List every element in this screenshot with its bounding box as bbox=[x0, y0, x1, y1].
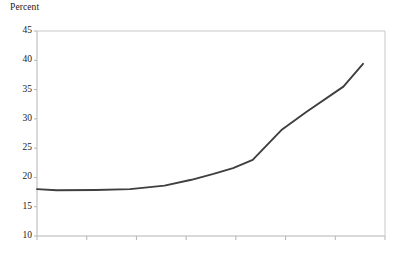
plot-frame bbox=[37, 31, 385, 236]
line-chart-plot bbox=[0, 0, 403, 253]
chart-container: Percent 1015202530354045 bbox=[0, 0, 403, 253]
data-series-line bbox=[37, 64, 363, 191]
x-axis-ticks bbox=[37, 236, 385, 240]
